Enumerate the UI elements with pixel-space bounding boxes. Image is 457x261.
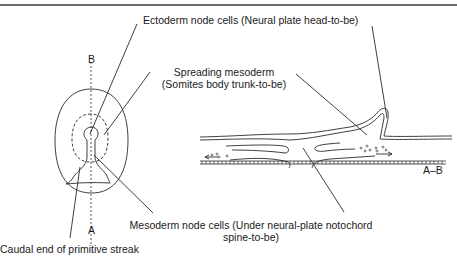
leader-mesoderm-right xyxy=(303,148,344,212)
leader-caudal xyxy=(70,167,80,238)
ectoderm-upper xyxy=(200,108,452,137)
axis-label-a: A xyxy=(88,224,95,236)
endoderm-hatch xyxy=(202,161,442,164)
label-caudal-end: Caudal end of primitive streak xyxy=(0,243,139,255)
leader-ectoderm-right xyxy=(372,26,387,118)
mesoderm-cells xyxy=(211,145,387,158)
mesoderm-lower-left xyxy=(230,158,290,168)
mesoderm-pocket-left xyxy=(226,145,288,153)
mesoderm-line-1: Mesoderm node cells (Under neural-plate … xyxy=(120,219,382,231)
mesoderm-line-2: spine-to-be) xyxy=(120,231,382,243)
node-and-streak xyxy=(66,127,110,184)
label-mesoderm-node-cells: Mesoderm node cells (Under neural-plate … xyxy=(120,219,382,243)
mesoderm-lower-mid xyxy=(312,156,375,168)
spreading-line-2: (Somites body trunk-to-be) xyxy=(156,78,292,90)
mesoderm-pocket-mid xyxy=(315,143,355,151)
label-spreading-mesoderm: Spreading mesoderm (Somites body trunk-t… xyxy=(156,66,292,90)
section-label-a-b: A–B xyxy=(423,164,443,176)
dashed-inner-region xyxy=(72,114,108,162)
spreading-line-1: Spreading mesoderm xyxy=(156,66,292,78)
leader-mesoderm-left xyxy=(94,155,153,213)
leader-ectoderm xyxy=(90,24,137,134)
label-ectoderm-node-cells: Ectoderm node cells (Neural plate head-t… xyxy=(143,14,358,26)
axis-label-b: B xyxy=(88,53,95,65)
